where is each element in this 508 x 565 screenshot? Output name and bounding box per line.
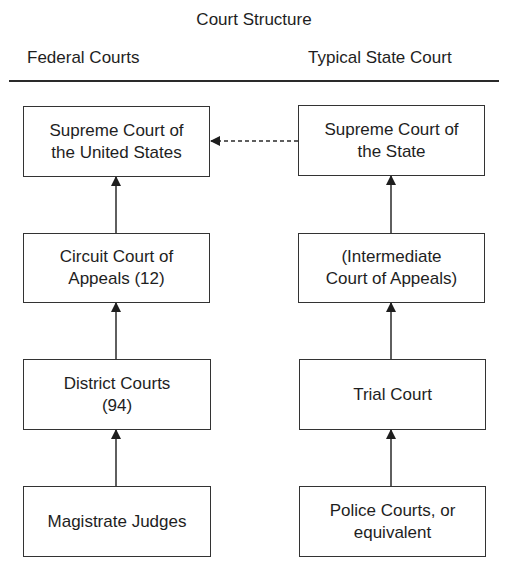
box-us-supreme-court: Supreme Court of the United States [23, 106, 210, 177]
box-police-courts: Police Courts, or equivalent [299, 486, 486, 557]
box-trial-court: Trial Court [299, 359, 486, 430]
box-intermediate-court-of-appeals: (Intermediate Court of Appeals) [298, 233, 485, 303]
box-state-supreme-court: Supreme Court of the State [298, 105, 485, 176]
box-circuit-court-of-appeals: Circuit Court of Appeals (12) [23, 233, 210, 303]
box-district-courts: District Courts (94) [23, 359, 211, 430]
box-magistrate-judges: Magistrate Judges [23, 486, 211, 557]
